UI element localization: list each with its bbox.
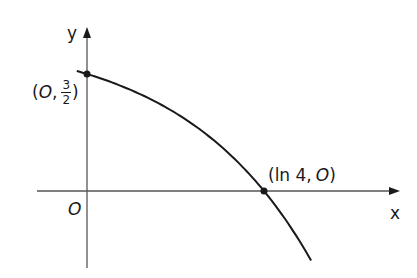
x-axis-label: x <box>390 205 400 222</box>
paren-close: ) <box>329 165 336 185</box>
comma: , <box>306 165 311 185</box>
x-intercept-x: ln 4 <box>275 165 307 185</box>
paren-close: ) <box>72 84 79 101</box>
x-intercept-y: O <box>316 165 329 185</box>
origin-label: O <box>68 201 81 218</box>
graph-canvas: y x O ( O , 3 2 ) (ln 4,O) <box>0 0 417 278</box>
x-intercept-label: (ln 4,O) <box>268 167 336 184</box>
paren-open: ( <box>268 165 275 185</box>
paren-open: ( <box>32 84 39 101</box>
y-intercept-point <box>84 71 91 78</box>
fraction-denominator: 2 <box>62 93 70 106</box>
x-axis-arrow-icon <box>389 187 400 195</box>
fraction-numerator: 3 <box>61 79 71 93</box>
x-intercept-point <box>261 188 268 195</box>
y-intercept-label: ( O , 3 2 ) <box>32 79 79 106</box>
y-axis-arrow-icon <box>83 27 91 38</box>
comma: , <box>52 84 57 101</box>
y-axis-label: y <box>67 25 77 42</box>
y-intercept-x: O <box>39 84 52 101</box>
graph-svg <box>0 0 417 278</box>
fraction-three-halves: 3 2 <box>61 79 71 106</box>
